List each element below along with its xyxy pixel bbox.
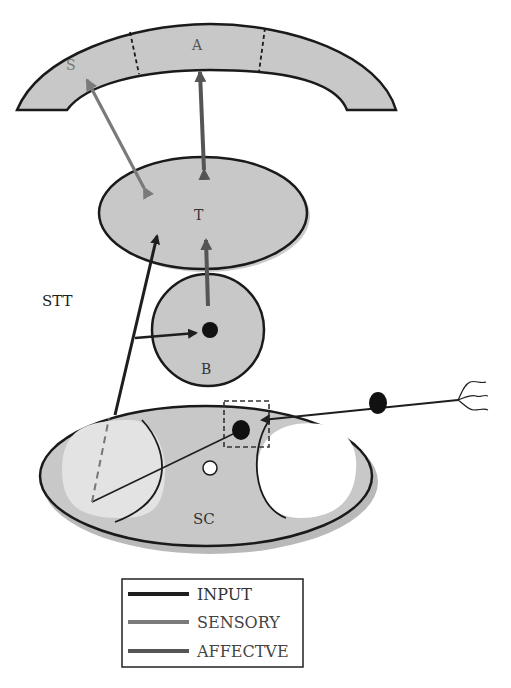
stt-label: STT: [42, 292, 73, 310]
cortex-region-a: A: [191, 37, 203, 53]
spinal-cord-label: SC: [193, 510, 215, 528]
central-canal: [203, 461, 217, 475]
legend: INPUT SENSORY AFFECTVE: [122, 579, 303, 667]
cortex: S A: [17, 24, 396, 110]
legend-label-affective: AFFECTVE: [196, 642, 289, 661]
brainstem-nucleus: [202, 322, 218, 338]
thalamus-label: T: [194, 207, 204, 223]
legend-label-input: INPUT: [197, 585, 252, 604]
legend-label-sensory: SENSORY: [197, 613, 280, 632]
stt-tract: [115, 236, 157, 415]
nerve-ending-icon: [458, 381, 488, 410]
dorsal-horn-neuron: [232, 420, 250, 440]
brainstem-label: B: [201, 361, 211, 377]
cortex-region-s: S: [66, 57, 76, 73]
thalamus-affective-cortex-arrow: [200, 72, 204, 170]
peripheral-afferent: [262, 381, 488, 420]
brainstem-thalamus-arrow: [206, 240, 208, 306]
pain-pathway-diagram: S A T B SC STT: [0, 0, 511, 688]
drg-cell-body: [369, 392, 387, 414]
spinal-cord: SC: [40, 406, 378, 554]
thalamus-sensory-cortex-arrow: [87, 80, 144, 188]
dorsal-horn-right: [258, 423, 356, 518]
dorsal-horn-left: [62, 420, 165, 518]
